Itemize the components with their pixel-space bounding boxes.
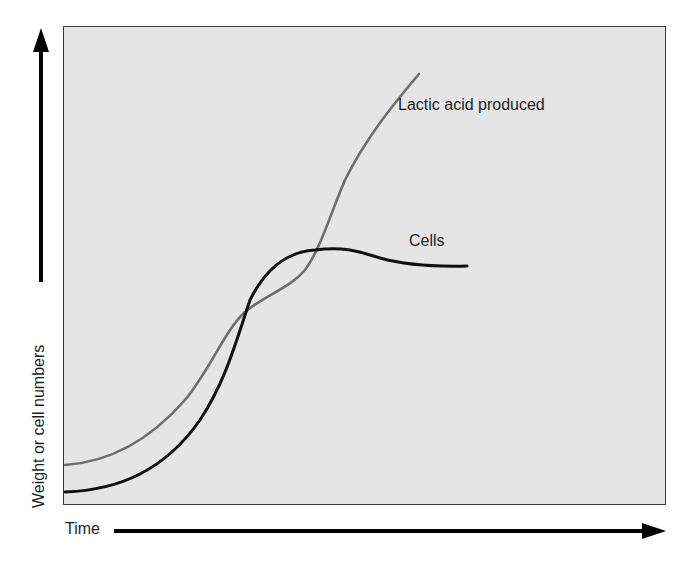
cells-curve bbox=[65, 249, 467, 492]
chart-svg bbox=[0, 0, 695, 569]
lactic-acid-label: Lactic acid produced bbox=[398, 96, 545, 114]
x-axis-label: Time bbox=[65, 520, 100, 538]
y-axis-label: Weight or cell numbers bbox=[30, 345, 48, 508]
cells-label: Cells bbox=[409, 232, 445, 250]
chart-figure: Lactic acid produced Cells Time Weight o… bbox=[0, 0, 695, 569]
x-axis-arrowhead-icon bbox=[642, 523, 666, 539]
y-axis-arrowhead-icon bbox=[33, 28, 49, 52]
lactic-acid-curve bbox=[65, 74, 419, 465]
